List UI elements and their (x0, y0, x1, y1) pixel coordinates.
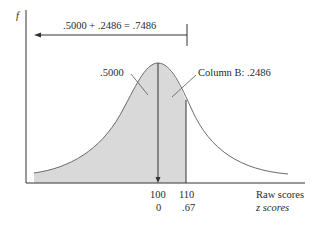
z-tick-0: 0 (156, 202, 161, 213)
raw-tick-100: 100 (150, 189, 166, 200)
equation-label: .5000 + .2486 = .7486 (63, 20, 156, 31)
raw-tick-110: 110 (179, 189, 194, 200)
left-area-label: .5000 (100, 67, 124, 78)
shaded-area (34, 63, 186, 183)
right-area-label: Column B: .2486 (198, 67, 271, 78)
left-arrow-icon (34, 33, 41, 38)
y-axis-label: f (16, 10, 21, 21)
raw-scores-label: Raw scores (256, 189, 304, 200)
normal-curve-diagram: f .5000 + .2486 = .7486 .5000 Column B: … (0, 0, 315, 226)
z-tick-067: .67 (182, 202, 195, 213)
z-scores-label: z scores (255, 202, 289, 213)
